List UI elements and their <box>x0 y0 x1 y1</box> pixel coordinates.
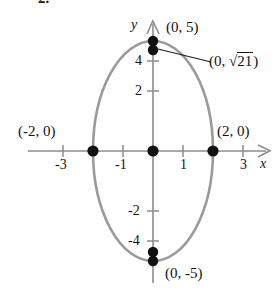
point-top-vertex <box>148 36 158 46</box>
x-axis-label: x <box>260 157 266 171</box>
y-axis-label: y <box>131 18 137 32</box>
square-root-icon: √21 <box>229 54 253 69</box>
point-lower-focus <box>148 247 158 257</box>
label-left-vertex: (-2, 0) <box>18 124 56 139</box>
x-tick-label-3: 3 <box>240 158 247 172</box>
y-tick-label-neg2: -2 <box>128 204 140 218</box>
x-tick-label-neg1: -1 <box>115 158 127 172</box>
label-bottom-vertex: (0, -5) <box>165 266 203 281</box>
point-origin <box>147 145 158 156</box>
y-tick-label-4: 4 <box>135 54 142 68</box>
y-tick-label-2: 2 <box>135 84 142 98</box>
radical-sign: √ <box>229 53 237 69</box>
label-upper-focus: (0, √21) <box>209 54 258 69</box>
x-tick-label-neg3: -3 <box>55 158 67 172</box>
radicand-value: 21 <box>237 52 253 69</box>
label-top-vertex: (0, 5) <box>166 20 199 35</box>
focus-label-open: (0, <box>209 53 229 69</box>
point-upper-focus <box>148 45 158 55</box>
point-bottom-vertex <box>148 256 158 266</box>
focus-leader-line <box>158 49 211 62</box>
focus-label-close: ) <box>253 53 258 69</box>
point-right-vertex <box>207 145 218 156</box>
ellipse-graph <box>0 0 276 299</box>
point-left-vertex <box>87 145 98 156</box>
y-tick-label-neg4: -4 <box>128 234 140 248</box>
label-right-vertex: (2, 0) <box>217 124 250 139</box>
x-tick-label-1: 1 <box>180 158 187 172</box>
